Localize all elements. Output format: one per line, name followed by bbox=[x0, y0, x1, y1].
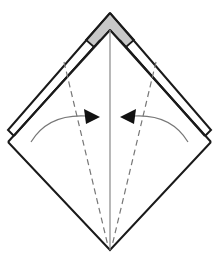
kite-base-shape bbox=[10, 30, 206, 250]
origami-diagram bbox=[0, 0, 219, 260]
